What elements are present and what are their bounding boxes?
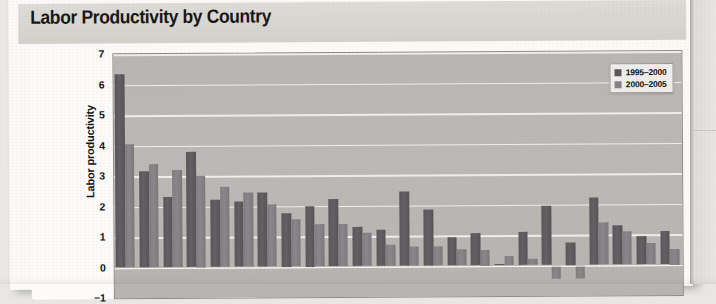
bar (599, 222, 609, 265)
legend-item: 2000–2005 (615, 79, 667, 89)
bar (291, 219, 301, 266)
bar (480, 250, 490, 265)
faint-rule (694, 130, 716, 131)
bar (267, 204, 277, 267)
legend-item-label: 2000–2005 (626, 79, 667, 89)
bar (234, 201, 244, 267)
bar (163, 197, 173, 267)
bar (504, 256, 514, 265)
bar (115, 74, 126, 268)
page-card: Labor Productivity by Country Labor prod… (8, 0, 693, 290)
plot-area: 1995–2000 2000–2005 (112, 50, 683, 299)
bar (409, 246, 419, 266)
y-axis-tick-label: 0 (76, 261, 106, 273)
bar (338, 224, 348, 267)
bar (196, 176, 206, 268)
bar (220, 186, 230, 267)
bar (433, 246, 443, 266)
y-axis-tick-label: 7 (74, 47, 104, 59)
bar (329, 199, 339, 266)
bar (353, 227, 363, 267)
y-axis-tick-label: 4 (75, 139, 105, 151)
y-axis-tick-label: 6 (75, 78, 105, 90)
bar (362, 233, 372, 267)
legend-item-label: 1995–2000 (626, 67, 667, 77)
page-right-gutter (695, 0, 716, 284)
bar (670, 249, 680, 264)
bar (622, 231, 632, 265)
bar (243, 192, 253, 267)
legend-swatch-icon (615, 69, 622, 76)
bar (589, 198, 599, 265)
bar (315, 224, 325, 267)
bar (518, 232, 528, 266)
bar-series-container (113, 51, 682, 298)
bar (471, 234, 481, 266)
bar (149, 164, 159, 268)
legend-item: 1995–2000 (615, 67, 667, 77)
y-axis-tick-labels: 76543210−1 (74, 49, 106, 299)
bar (613, 225, 623, 265)
y-axis-tick-label: 1 (75, 230, 105, 242)
bar (139, 172, 149, 268)
bar (447, 237, 457, 266)
bar (637, 236, 647, 265)
bar (660, 231, 670, 265)
chart-figure: Labor productivity 76543210−1 1995–2000 … (30, 46, 682, 300)
bar (646, 243, 656, 264)
bar (457, 249, 467, 266)
y-axis-tick-label: −1 (76, 291, 106, 303)
bar (386, 245, 396, 266)
bar (258, 192, 268, 267)
bar (281, 213, 291, 266)
chart-legend: 1995–2000 2000–2005 (610, 63, 674, 93)
bar (542, 206, 552, 266)
bar (172, 170, 182, 268)
bar (566, 242, 576, 265)
page-title: Labor Productivity by Country (30, 5, 271, 28)
bar (423, 209, 433, 265)
bar (400, 191, 410, 266)
bar (305, 206, 315, 267)
y-axis-tick-label: 5 (75, 108, 105, 120)
y-axis-tick-label: 3 (75, 169, 105, 181)
bar (575, 265, 585, 279)
bar (376, 230, 386, 267)
bar (186, 151, 196, 267)
bar (210, 200, 220, 267)
bar (552, 265, 562, 279)
bar (125, 144, 135, 268)
y-axis-tick-label: 2 (75, 200, 105, 212)
legend-swatch-icon (615, 81, 622, 88)
